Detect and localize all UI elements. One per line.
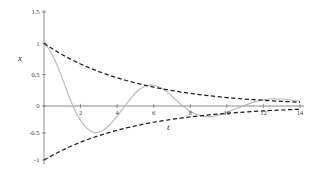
y-tick-label: 0	[36, 102, 39, 109]
y-tick-label: 0.5	[31, 71, 39, 78]
chart-container: 2468101214 -1-0.500.511.5 x t	[0, 0, 316, 178]
damped-oscillation-plot: 2468101214 -1-0.500.511.5 x t	[0, 0, 316, 178]
y-tick-label: -1	[34, 156, 39, 163]
y-axis-title: x	[17, 53, 22, 63]
plot-background	[0, 0, 316, 178]
y-tick-label: 1.5	[31, 8, 39, 15]
x-tick-label: 2	[79, 109, 82, 116]
y-tick-label: 1	[36, 40, 39, 47]
x-tick-label: 10	[224, 109, 231, 116]
y-tick-label: -0.5	[29, 129, 39, 136]
x-tick-label: 14	[297, 109, 304, 116]
x-tick-label: 8	[189, 109, 192, 116]
x-tick-label: 12	[260, 109, 267, 116]
